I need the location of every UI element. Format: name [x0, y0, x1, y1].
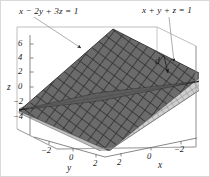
- z-tick-neg4: −4: [13, 112, 23, 121]
- leader-lower-plane: [169, 17, 174, 62]
- x-tick-0: 0: [147, 152, 151, 161]
- plane-upper-dark: [19, 29, 203, 151]
- z-tick-neg2: −2: [13, 97, 23, 106]
- axis-label-y: y: [67, 164, 71, 173]
- figure-3d-two-planes: x − 2y + 3z = 1 x + y + z = 1 d z 6 4 2 …: [0, 0, 210, 177]
- equation-label-lower-plane: x + y + z = 1: [142, 6, 192, 15]
- y-tick-0: 0: [69, 153, 73, 162]
- intersection-line-label-d: d: [155, 56, 160, 66]
- axis-z: [30, 35, 34, 135]
- z-tick-4: 4: [18, 53, 22, 62]
- z-tick-6: 6: [18, 39, 22, 48]
- y-tick-2: 2: [93, 159, 97, 168]
- leader-upper-plane: [34, 17, 81, 48]
- equation-label-upper-plane: x − 2y + 3z = 1: [19, 7, 78, 16]
- x-tick-neg2: −2: [174, 145, 184, 154]
- z-tick-0: 0: [18, 82, 22, 91]
- x-tick-2: 2: [117, 158, 121, 167]
- axis-label-z: z: [7, 83, 11, 92]
- axis-label-x: x: [158, 161, 162, 170]
- z-tick-2: 2: [18, 67, 22, 76]
- y-tick-neg2: −2: [41, 146, 51, 155]
